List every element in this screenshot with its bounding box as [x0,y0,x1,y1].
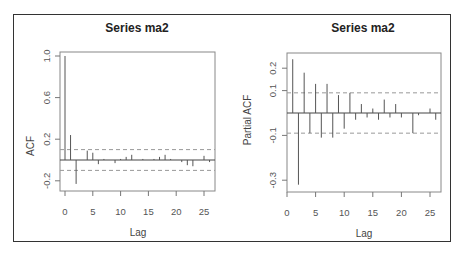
y-tick-label: 0.1 [267,84,278,97]
x-tick-label: 0 [62,206,67,217]
x-tick-label: 20 [171,206,182,217]
acf-plot: Series ma2 Lag ACF 1.00.60.2-0.205101520… [25,21,215,238]
pacf-plot: Series ma2 Lag Partial ACF 0.20.1-0.1-0.… [242,21,441,239]
acf-xlabel: Lag [130,227,147,238]
acf-ylabel: ACF [25,136,36,156]
y-tick-label: -0.1 [267,127,278,143]
pacf-ylabel: Partial ACF [242,95,253,146]
x-tick-label: 15 [143,206,154,217]
pacf-xlabel: Lag [356,228,373,239]
pacf-title: Series ma2 [331,21,395,35]
y-tick-label: 0.2 [267,62,278,75]
x-tick-label: 10 [115,206,126,217]
y-tick-label: -0.3 [267,172,278,188]
y-tick-label: 0.6 [41,91,52,104]
y-tick-label: 0.2 [41,133,52,146]
x-tick-label: 0 [284,207,289,218]
acf-pacf-figure: Series ma2 Lag ACF 1.00.60.2-0.205101520… [0,0,462,254]
x-tick-label: 25 [425,207,436,218]
x-tick-label: 5 [90,206,95,217]
y-tick-label: 1.0 [41,49,52,62]
x-tick-label: 5 [313,207,318,218]
x-tick-label: 15 [368,207,379,218]
x-tick-label: 20 [396,207,407,218]
y-tick-label: -0.2 [41,173,52,189]
acf-title: Series ma2 [105,21,169,35]
x-tick-label: 10 [339,207,350,218]
x-tick-label: 25 [199,206,210,217]
